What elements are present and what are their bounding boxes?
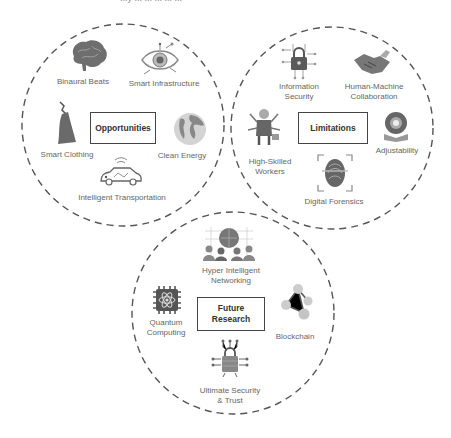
item-adjustability: Adjustability: [376, 146, 419, 156]
padlock-circuit-icon: [279, 40, 319, 80]
item-binaural-beats: Binaural Beats: [57, 77, 109, 87]
item-digital-forensics: Digital Forensics: [304, 197, 363, 207]
limitations-box: Limitations: [298, 112, 368, 144]
item-ultimate-security-trust: Ultimate Security & Trust: [200, 386, 260, 406]
eye-circuit-icon: [138, 42, 182, 76]
item-blockchain: Blockchain: [276, 332, 315, 342]
network-globe-people-icon: [201, 225, 257, 261]
item-information-security: Information Security: [279, 82, 319, 102]
item-high-skilled-workers: High-Skilled Workers: [249, 157, 292, 177]
multitask-worker-icon: [246, 106, 282, 146]
connected-car-icon: [98, 157, 144, 187]
dress-icon: [52, 100, 78, 146]
brain-icon: [68, 38, 110, 74]
item-intelligent-transportation: Intelligent Transportation: [78, 193, 166, 203]
handshake-icon: [352, 46, 392, 78]
item-quantum-computing: Quantum Computing: [147, 318, 186, 338]
opportunities-box: Opportunities: [90, 112, 156, 144]
atom-chip-icon: [151, 284, 183, 316]
item-smart-infrastructure: Smart Infrastructure: [129, 79, 200, 89]
opportunities-title: Opportunities: [95, 123, 151, 134]
limitations-title: Limitations: [310, 123, 355, 134]
fingerprint-scan-icon: [316, 153, 354, 193]
lock-circuit-icon: [211, 339, 249, 379]
globe-icon: [172, 111, 208, 147]
item-smart-clothing: Smart Clothing: [41, 150, 94, 160]
future-research-box: FutureResearch: [197, 297, 265, 331]
item-human-machine-collaboration: Human-Machine Collaboration: [345, 82, 404, 102]
item-clean-energy: Clean Energy: [158, 151, 206, 161]
item-hyper-intelligent-networking: Hyper Intelligent Networking: [202, 266, 260, 286]
gear-book-icon: [381, 110, 411, 142]
blockchain-nodes-icon: [276, 283, 314, 321]
future-research-title: FutureResearch: [212, 303, 250, 324]
